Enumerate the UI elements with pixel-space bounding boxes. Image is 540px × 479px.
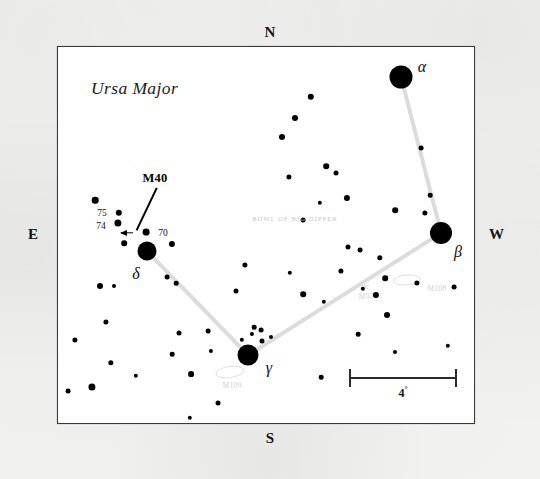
field-star [279,134,285,140]
field-star [446,344,450,348]
field-star [170,352,175,357]
field-star [393,350,397,354]
star-label-74: 74 [96,221,106,231]
named-star-α [390,66,413,89]
asterism-line-α-β [399,76,443,233]
field-star [250,332,254,336]
m40-label: M40 [142,171,167,186]
field-star [66,389,71,394]
field-star [174,281,179,286]
field-star [286,174,291,179]
field-star [209,349,213,353]
field-star [422,210,427,215]
named-star-δ [138,242,157,261]
field-star [112,284,116,288]
field-star [319,375,324,380]
star-label-β: β [454,243,462,261]
asterism-line-γ-δ [146,250,250,357]
named-star-74 [114,219,121,226]
field-star [323,163,329,169]
field-star [121,240,127,246]
field-star [308,94,314,100]
field-star [373,292,379,298]
field-star [165,275,170,280]
scale-bar-unit: ° [404,385,407,394]
star-chart-page: N S E W Ursa Major ✻M97M108M109 αβγδ7075… [0,0,540,479]
field-star [88,383,95,390]
field-star [177,331,182,336]
field-star [242,262,247,267]
field-star [428,193,433,198]
chart-annotation: BOWL OF BIG DIPPER [252,215,337,222]
field-star [318,201,322,205]
field-star [206,329,211,334]
compass-label-north: N [0,24,540,41]
field-star [338,268,343,273]
field-star [259,328,264,333]
named-star-γ [238,345,259,366]
field-star [414,280,419,285]
field-star [260,339,265,344]
compass-label-south: S [0,430,540,447]
scale-bar-label: 4° [349,385,457,401]
chart-frame: Ursa Major ✻M97M108M109 αβγδ707574 BOWL … [57,46,475,424]
field-star [103,319,108,324]
asterism-line-β-γ [247,231,442,357]
field-star [252,325,257,330]
m40-arrow-head [120,230,127,236]
field-star [269,335,273,339]
star-label-γ: γ [266,359,272,377]
named-star-70 [143,229,150,236]
field-star [169,241,175,247]
field-star [392,207,398,213]
star-label-75: 75 [97,208,107,218]
field-star [382,275,388,281]
field-star [419,146,424,151]
named-star-β [430,222,452,244]
dso-label-M109: M109 [222,381,241,390]
field-star [356,332,361,337]
dso-label-M97: M97 [358,292,373,301]
field-star [344,195,350,201]
constellation-title: Ursa Major [91,78,178,99]
scale-bar-rule [349,377,457,379]
field-star [216,401,221,406]
field-star [377,255,382,260]
field-star [346,245,351,250]
field-star [452,285,457,290]
field-star [300,291,306,297]
field-star [384,312,390,318]
field-star [358,248,363,253]
compass-label-west: W [489,226,504,243]
field-star [188,416,192,420]
galaxy-ellipse-M109 [215,364,245,380]
dso-label-M108: M108 [427,284,446,293]
field-star [134,374,138,378]
field-star [72,337,77,342]
compass-label-east: E [28,226,38,243]
named-star-75 [116,210,122,216]
field-star [108,360,113,365]
star-label-α: α [418,58,426,76]
field-star [288,271,292,275]
field-star [97,283,103,289]
star-label-δ: δ [132,265,139,283]
star-label-70: 70 [158,228,168,238]
sky-plot-area: Ursa Major ✻M97M108M109 αβγδ707574 BOWL … [58,47,474,423]
field-star [334,171,339,176]
field-star [292,115,298,121]
m40-leader-line [136,188,157,231]
field-star [92,197,99,204]
field-star [234,289,239,294]
field-star [188,371,194,377]
field-star [240,338,244,342]
